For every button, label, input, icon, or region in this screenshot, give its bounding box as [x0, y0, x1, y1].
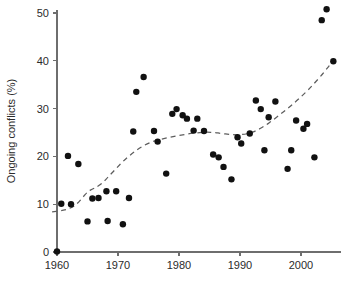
data-point: [103, 188, 109, 194]
data-point: [238, 140, 244, 146]
x-tick-label: 2000: [289, 259, 313, 271]
data-point: [247, 130, 253, 136]
data-point: [154, 138, 160, 144]
data-point: [210, 151, 216, 157]
data-point: [89, 195, 95, 201]
data-point: [258, 106, 264, 112]
y-tick-label: 0: [43, 246, 49, 258]
chart-figure: 01020304050 19601970198019902000 Ongoing…: [0, 0, 349, 281]
y-tick-label: 10: [37, 198, 49, 210]
data-point: [104, 218, 110, 224]
y-tick-label: 50: [37, 7, 49, 19]
data-point: [319, 17, 325, 23]
y-axis-title: Ongoing conflicts (%): [5, 79, 17, 184]
data-point: [311, 154, 317, 160]
data-point: [323, 6, 329, 12]
data-point: [304, 121, 310, 127]
data-point: [75, 161, 81, 167]
data-point: [169, 111, 175, 117]
data-point: [265, 114, 271, 120]
x-tick-label: 1990: [228, 259, 252, 271]
data-point: [228, 176, 234, 182]
data-point: [215, 154, 221, 160]
data-point: [58, 201, 64, 207]
data-point: [234, 134, 240, 140]
data-point: [173, 106, 179, 112]
data-point: [133, 89, 139, 95]
data-point: [272, 98, 278, 104]
y-tick-label: 40: [37, 55, 49, 67]
data-point: [194, 115, 200, 121]
data-point: [261, 147, 267, 153]
data-point: [163, 170, 169, 176]
data-point: [95, 195, 101, 201]
data-point: [65, 153, 71, 159]
data-point: [126, 195, 132, 201]
data-point: [288, 147, 294, 153]
data-point: [253, 97, 259, 103]
data-point: [130, 128, 136, 134]
data-point: [140, 74, 146, 80]
data-point: [293, 117, 299, 123]
data-points-group: [54, 6, 337, 255]
axis-titles-group: Ongoing conflicts (%): [5, 79, 17, 184]
data-point: [54, 248, 60, 254]
data-point: [330, 58, 336, 64]
data-point: [201, 128, 207, 134]
x-axis: 19601970198019902000: [45, 252, 341, 271]
data-point: [68, 201, 74, 207]
x-tick-label: 1960: [45, 259, 69, 271]
data-point: [151, 128, 157, 134]
scatter-plot: 01020304050 19601970198019902000 Ongoing…: [0, 0, 349, 281]
trend-line-group: [52, 61, 334, 212]
data-point: [220, 164, 226, 170]
x-tick-label: 1970: [106, 259, 130, 271]
data-point: [190, 127, 196, 133]
data-point: [84, 218, 90, 224]
data-point: [184, 115, 190, 121]
y-tick-label: 30: [37, 103, 49, 115]
trend-line: [52, 61, 334, 212]
y-axis: 01020304050: [37, 7, 57, 258]
data-point: [120, 221, 126, 227]
data-point: [113, 188, 119, 194]
y-tick-label: 20: [37, 150, 49, 162]
data-point: [284, 166, 290, 172]
x-tick-label: 1980: [167, 259, 191, 271]
